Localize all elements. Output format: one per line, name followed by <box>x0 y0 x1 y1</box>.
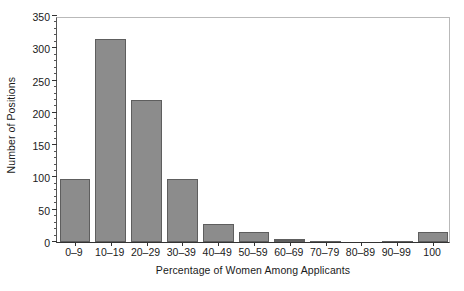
x-tick-label: 90–99 <box>382 246 411 258</box>
y-tick-minor <box>54 157 57 158</box>
y-tick-minor <box>54 183 57 184</box>
y-tick-minor <box>54 151 57 152</box>
x-tick-label: 100 <box>423 246 441 258</box>
bar <box>131 100 162 242</box>
x-axis-tick-labels: 0–910–1920–2930–3940–4950–5960–6970–7980… <box>56 246 450 262</box>
x-tick-label: 60–69 <box>274 246 303 258</box>
x-tick-label: 50–59 <box>238 246 267 258</box>
y-tick-minor <box>54 189 57 190</box>
y-tick-major <box>52 80 57 81</box>
y-tick-minor <box>54 41 57 42</box>
y-tick-minor <box>54 215 57 216</box>
y-tick-minor <box>54 196 57 197</box>
y-tick-major <box>52 241 57 242</box>
plot-area <box>56 17 450 243</box>
bar <box>167 179 198 242</box>
y-tick-label: 150 <box>32 140 50 152</box>
bar <box>203 224 234 242</box>
bar <box>418 232 449 242</box>
x-axis-title-text: Percentage of Women Among Applicants <box>156 264 350 276</box>
y-tick-minor <box>54 118 57 119</box>
y-tick-minor <box>54 164 57 165</box>
y-tick-label: 200 <box>32 108 50 120</box>
y-tick-minor <box>54 138 57 139</box>
y-tick-minor <box>54 99 57 100</box>
x-tick-label: 10–19 <box>95 246 124 258</box>
y-axis-title: Number of Positions <box>0 0 22 250</box>
y-tick-minor <box>54 34 57 35</box>
bar-chart-figure: Number of Positions 05010015020025030035… <box>0 0 464 291</box>
y-tick-minor <box>54 21 57 22</box>
y-tick-label: 350 <box>32 11 50 23</box>
bar <box>239 232 270 242</box>
y-tick-label: 100 <box>32 172 50 184</box>
y-tick-minor <box>54 131 57 132</box>
bar <box>60 179 91 242</box>
y-axis-tick-labels: 050100150200250300350 <box>20 0 54 291</box>
y-axis-title-text: Number of Positions <box>5 77 17 173</box>
x-tick-label: 40–49 <box>203 246 232 258</box>
y-tick-label: 50 <box>38 205 50 217</box>
y-tick-minor <box>54 105 57 106</box>
y-tick-major <box>52 176 57 177</box>
y-tick-major <box>52 112 57 113</box>
x-tick-label: 0–9 <box>65 246 83 258</box>
y-tick-minor <box>54 28 57 29</box>
y-tick-minor <box>54 86 57 87</box>
y-tick-minor <box>54 93 57 94</box>
x-tick-label: 70–79 <box>310 246 339 258</box>
y-tick-minor <box>54 67 57 68</box>
y-tick-minor <box>54 235 57 236</box>
y-tick-major <box>52 144 57 145</box>
y-tick-label: 0 <box>44 237 50 249</box>
y-tick-label: 300 <box>32 43 50 55</box>
y-tick-major <box>52 47 57 48</box>
y-tick-minor <box>54 170 57 171</box>
y-tick-major <box>52 15 57 16</box>
y-tick-major <box>52 209 57 210</box>
y-tick-minor <box>54 222 57 223</box>
y-tick-minor <box>54 54 57 55</box>
x-axis-title: Percentage of Women Among Applicants <box>56 264 450 276</box>
x-tick-label: 80–89 <box>346 246 375 258</box>
y-tick-label: 250 <box>32 76 50 88</box>
y-tick-minor <box>54 125 57 126</box>
x-tick-label: 20–29 <box>131 246 160 258</box>
y-tick-minor <box>54 228 57 229</box>
x-tick-label: 30–39 <box>167 246 196 258</box>
y-tick-minor <box>54 202 57 203</box>
y-tick-minor <box>54 73 57 74</box>
y-tick-minor <box>54 60 57 61</box>
bar-series <box>57 18 449 242</box>
bar <box>95 39 126 242</box>
